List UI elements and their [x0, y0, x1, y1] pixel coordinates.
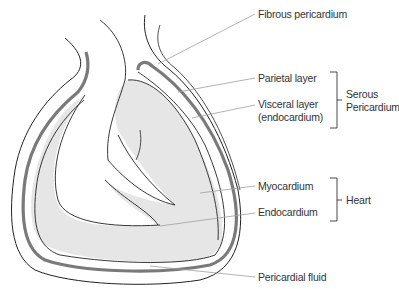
label-fibrous-pericardium: Fibrous pericardium — [258, 8, 347, 20]
label-visceral-layer: Visceral layer — [258, 98, 318, 110]
group-heart: Heart — [346, 194, 371, 206]
group-serous-line1: Serous — [346, 88, 378, 100]
label-myocardium: Myocardium — [258, 180, 313, 192]
label-pericardial-fluid: Pericardial fluid — [258, 271, 326, 283]
label-endocardium: Endocardium — [258, 206, 318, 218]
group-serous-line2: Pericardium — [346, 101, 399, 113]
label-parietal-layer: Parietal layer — [258, 72, 316, 84]
label-visceral-layer-sub: (endocardium) — [258, 111, 323, 123]
pericardium-diagram: Fibrous pericardium Parietal layer Visce… — [0, 0, 399, 289]
heart-illustration — [0, 0, 399, 289]
